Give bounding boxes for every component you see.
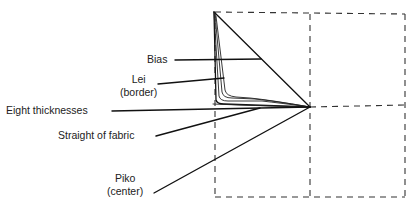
label-lei-line2: (border) (120, 86, 157, 98)
label-straight-of-fabric: Straight of fabric (58, 129, 134, 142)
label-piko-line1: Piko (115, 172, 135, 184)
lei-leader-line (158, 78, 224, 84)
outline-top-edge (215, 12, 405, 14)
bias-leader-line (175, 59, 261, 60)
label-straight-of-fabric-text: Straight of fabric (58, 129, 134, 141)
outline-center-horizontal (310, 105, 405, 107)
label-piko: Piko (center) (107, 172, 143, 198)
label-lei: Lei (border) (120, 73, 157, 99)
label-eight-thicknesses: Eight thicknesses (6, 104, 88, 117)
eight-thicknesses-leader-line (112, 107, 310, 111)
label-lei-line1: Lei (132, 73, 146, 85)
label-bias-text: Bias (147, 53, 167, 65)
label-eight-thicknesses-text: Eight thicknesses (6, 104, 88, 116)
straight-of-fabric-leader-line (156, 108, 260, 136)
piko-leader-line (154, 107, 310, 193)
label-piko-line2: (center) (107, 185, 143, 197)
label-bias: Bias (147, 53, 167, 66)
